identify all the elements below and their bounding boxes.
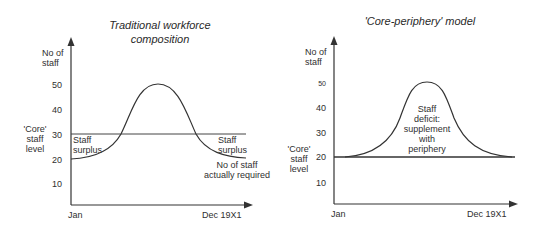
diagram-canvas xyxy=(0,0,542,228)
right-y-axis-label: No of staff xyxy=(305,47,327,67)
staff-deficit-label: Staff deficit: supplement with periphery xyxy=(397,104,457,154)
left-y-label-line-2: staff xyxy=(42,58,64,68)
left-surplus-label: Staff surplus xyxy=(73,135,102,155)
left-title-line-2: composition xyxy=(95,32,225,46)
left-tick-50: 50 xyxy=(46,80,62,90)
staff-required-line-1: No of staff xyxy=(204,160,270,170)
left-surplus-line-1: Staff xyxy=(73,135,102,145)
left-surplus-line-2: surplus xyxy=(73,145,102,155)
left-y-axis-label: No of staff xyxy=(42,48,64,68)
right-surplus-line-1: Staff xyxy=(218,135,247,145)
left-y-label-line-1: No of xyxy=(42,48,64,58)
left-x-end-label: Dec 19X1 xyxy=(202,210,242,220)
right-chart-title: 'Core-periphery' model xyxy=(355,14,485,28)
left-core-label-line-1: 'Core' xyxy=(20,124,50,134)
right-surplus-label: Staff surplus xyxy=(218,135,247,155)
deficit-line-3: supplement xyxy=(397,124,457,134)
right-core-label-line-2: staff xyxy=(284,154,314,164)
right-tick-50: 50 xyxy=(310,79,326,89)
right-core-label-line-3: level xyxy=(284,164,314,174)
right-core-staff-level-label: 'Core' staff level xyxy=(284,144,314,174)
left-core-label-line-2: staff xyxy=(20,134,50,144)
deficit-line-4: with xyxy=(397,134,457,144)
left-tick-10: 10 xyxy=(46,179,62,189)
left-tick-40: 40 xyxy=(46,105,62,115)
deficit-line-5: periphery xyxy=(397,144,457,154)
left-x-arrow-icon xyxy=(244,202,253,209)
right-x-arrow-icon xyxy=(509,201,518,208)
right-tick-10: 10 xyxy=(310,178,326,188)
right-tick-40: 40 xyxy=(310,103,326,113)
staff-required-label: No of staff actually required xyxy=(204,160,270,180)
left-y-arrow-icon xyxy=(68,37,75,46)
right-core-label-line-1: 'Core' xyxy=(284,144,314,154)
right-y-label-line-1: No of xyxy=(305,47,327,57)
deficit-line-1: Staff xyxy=(397,104,457,114)
left-core-staff-level-label: 'Core' staff level xyxy=(20,124,50,154)
left-x-start-label: Jan xyxy=(68,210,83,220)
right-tick-30: 30 xyxy=(310,128,326,138)
right-y-arrow-icon xyxy=(331,36,338,45)
right-x-start-label: Jan xyxy=(331,209,346,219)
right-surplus-line-2: surplus xyxy=(218,145,247,155)
right-y-label-line-2: staff xyxy=(305,57,327,67)
left-title-line-1: Traditional workforce xyxy=(95,18,225,32)
left-chart-title: Traditional workforce composition xyxy=(95,18,225,46)
staff-required-line-2: actually required xyxy=(204,170,270,180)
left-tick-20: 20 xyxy=(46,155,62,165)
left-core-label-line-3: level xyxy=(20,144,50,154)
deficit-line-2: deficit: xyxy=(397,114,457,124)
left-chart-axes xyxy=(71,44,247,205)
right-x-end-label: Dec 19X1 xyxy=(467,209,507,219)
